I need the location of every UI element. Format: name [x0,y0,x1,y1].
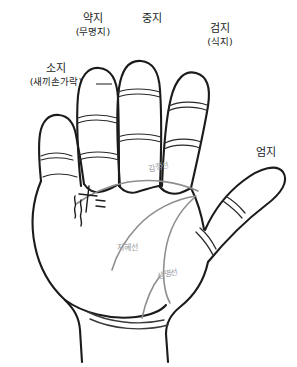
hash-mark-1 [96,200,105,201]
life-line [164,198,194,303]
label-ring-main: 약지 [57,12,129,26]
label-head-line: 지혜선 [117,241,138,252]
index-outline [162,72,209,188]
ring-crease-3 [79,152,119,155]
index-crease-3 [165,139,201,143]
ring-crease-1 [78,115,117,118]
label-middle-main: 중지 [128,12,176,26]
index-crease-2 [168,107,206,111]
label-index-main: 검지 [184,22,256,36]
web-middle-index [160,187,191,194]
index-base-to-web [191,188,204,229]
head-line [112,196,196,270]
pinky-crease-3 [43,174,77,177]
cross-mark-vertical [86,186,89,212]
index-crease-4 [164,145,200,149]
label-ring-sub: (무명지) [57,26,129,38]
ring-crease-4 [79,157,119,160]
middle-crease-2 [118,94,160,97]
hand-illustration [0,0,297,367]
middle-crease-4 [118,139,161,142]
palm-heel-contour [65,300,166,318]
hatch-mark-2 [80,200,81,226]
pinky-crease-1 [41,153,72,156]
cross-mark-horizontal [79,194,97,196]
label-pinky-main: 소지 [10,62,102,76]
label-middle-finger: 중지 [128,12,176,26]
middle-crease-1 [118,89,160,92]
thumb-base-crease-2 [196,232,213,255]
middle-crease-3 [118,134,161,137]
thumb-knuckle-crease-1 [227,197,245,213]
label-thumb: 엄지 [238,146,294,160]
thumb-knuckle-crease-2 [223,201,242,218]
label-index-sub: (식지) [184,36,256,48]
hand-outline-group [33,61,286,362]
label-pinky: 소지 (새끼손가락) [10,62,102,88]
label-pinky-sub: (새끼손가락) [10,76,102,88]
pinky-crease-2 [41,158,73,160]
label-index-finger: 검지 (식지) [184,22,256,48]
bracelet-line-2 [90,319,168,329]
hash-mark-2 [96,206,105,207]
index-crease-1 [169,102,207,106]
thumb-outline [205,168,285,262]
hatch-mark-1 [74,196,75,218]
finger-crease-group [41,89,207,177]
label-ring-finger: 약지 (무명지) [57,12,129,38]
palmistry-diagram: 소지 (새끼손가락) 약지 (무명지) 중지 검지 (식지) 엄지 감정선 지혜… [0,0,297,367]
label-thumb-main: 엄지 [238,146,294,160]
web-ring-middle [119,186,159,193]
ring-crease-2 [78,120,117,123]
